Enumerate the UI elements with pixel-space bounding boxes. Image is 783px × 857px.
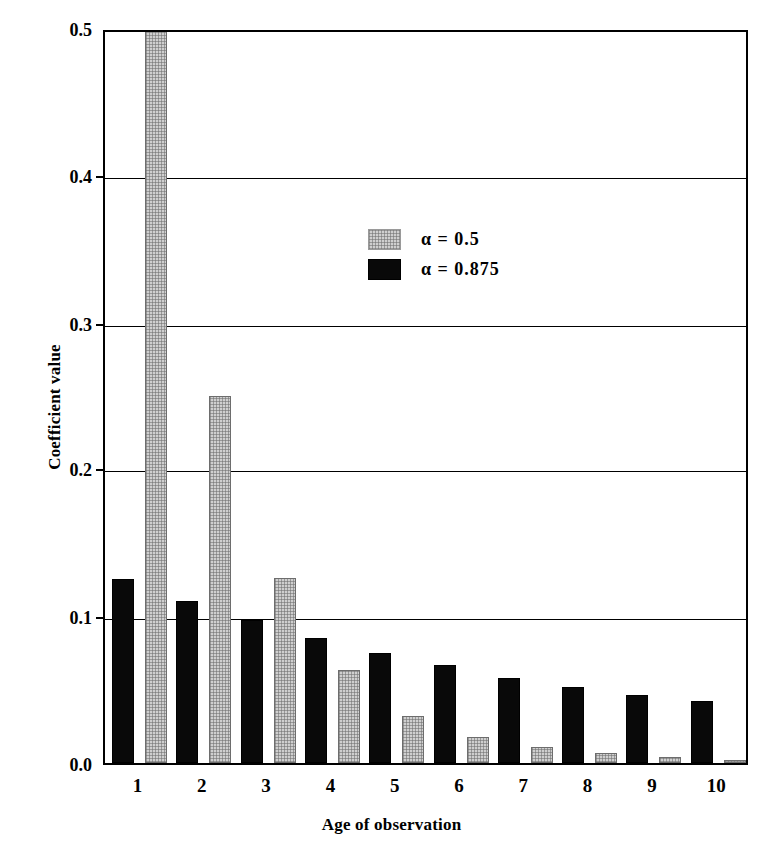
y-tick-label: 0.4 [44, 168, 92, 186]
bar-alpha-0-5-6 [467, 737, 489, 763]
y-tick-label: 0.5 [44, 21, 92, 39]
bar-alpha-0-5-7 [531, 747, 553, 763]
x-tick-label: 10 [686, 775, 746, 797]
gridline [105, 619, 746, 620]
x-tick-label: 8 [558, 775, 618, 797]
x-tick-label: 7 [493, 775, 553, 797]
legend-swatch-black-icon [368, 259, 401, 280]
legend-swatch-gray-icon [368, 229, 401, 250]
bar-alpha-0-875-1 [112, 579, 134, 763]
plot-area [103, 30, 748, 765]
bar-alpha-0-875-7 [498, 678, 520, 763]
bar-alpha-0-5-8 [595, 753, 617, 763]
legend-label: α = 0.5 [421, 229, 480, 250]
legend-label: α = 0.875 [421, 259, 500, 280]
x-tick-label: 3 [236, 775, 296, 797]
bar-alpha-0-5-2 [209, 396, 231, 764]
x-tick-label: 9 [622, 775, 682, 797]
gridline [105, 178, 746, 179]
bar-alpha-0-5-1 [145, 30, 167, 763]
bar-alpha-0-5-4 [338, 670, 360, 763]
chart-legend: α = 0.5 α = 0.875 [368, 224, 598, 284]
bar-alpha-0-5-3 [274, 578, 296, 763]
bar-alpha-0-875-2 [176, 601, 198, 763]
x-tick-label: 1 [108, 775, 168, 797]
bar-alpha-0-875-10 [691, 701, 713, 763]
y-axis-tick-labels: 0.5 0.4 0.3 0.2 0.1 0.0 [10, 0, 92, 857]
y-tick-label: 0.2 [44, 461, 92, 479]
bar-chart-figure: Coefficient value 0.5 0.4 0.3 0.2 0.1 0.… [0, 0, 783, 857]
y-tick-label: 0.1 [44, 609, 92, 627]
x-tick-label: 5 [365, 775, 425, 797]
bar-alpha-0-5-10 [724, 760, 746, 763]
x-tick-label: 6 [429, 775, 489, 797]
legend-item-alpha-0-5: α = 0.5 [368, 224, 598, 254]
x-tick-label: 2 [172, 775, 232, 797]
bar-alpha-0-875-8 [562, 687, 584, 763]
gridline [105, 471, 746, 472]
bar-alpha-0-875-6 [434, 665, 456, 763]
gridline [105, 326, 746, 327]
bar-alpha-0-875-3 [241, 620, 263, 763]
bar-alpha-0-5-5 [402, 716, 424, 763]
x-tick-label: 4 [300, 775, 360, 797]
x-axis-title: Age of observation [0, 815, 783, 835]
y-tick-label: 0.0 [44, 756, 92, 774]
bar-alpha-0-5-9 [659, 757, 681, 763]
bar-alpha-0-875-4 [305, 638, 327, 763]
legend-item-alpha-0-875: α = 0.875 [368, 254, 598, 284]
bar-alpha-0-875-9 [626, 695, 648, 763]
y-tick-label: 0.3 [44, 316, 92, 334]
bar-alpha-0-875-5 [369, 653, 391, 763]
